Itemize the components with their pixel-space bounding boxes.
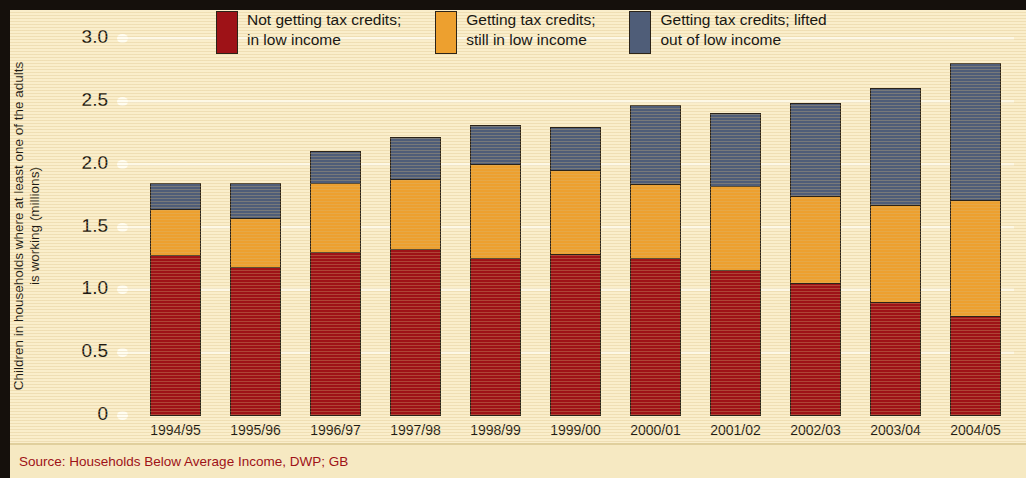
legend-label: Not getting tax credits; in low income: [247, 10, 401, 50]
legend-label: Getting tax credits; lifted out of low i…: [660, 10, 826, 50]
y-axis-tick-marker: [117, 223, 128, 232]
legend-color-swatch: [216, 11, 238, 54]
chart-figure: Children in households where at least on…: [0, 0, 1026, 478]
bar-segment: [150, 255, 201, 416]
bar-stack: [710, 0, 761, 415]
bar-segment: [950, 200, 1001, 317]
x-axis-tick-label: 1994/95: [136, 422, 216, 438]
bar-segment: [790, 196, 841, 284]
bar-segment: [470, 258, 521, 416]
y-axis-tick-label: 3.0: [42, 26, 108, 48]
bar-stack: [150, 0, 201, 415]
bar-stack: [470, 0, 521, 415]
bar-segment: [870, 302, 921, 416]
bar-segment: [950, 63, 1001, 201]
y-axis-tick-label: 2.0: [42, 152, 108, 174]
y-axis-tick-label: 0.5: [42, 340, 108, 362]
bar-segment: [470, 164, 521, 259]
x-axis-tick-label: 2002/03: [776, 422, 856, 438]
bar-segment: [950, 316, 1001, 416]
bar-stack: [390, 0, 441, 415]
y-axis-tick-label: 1.5: [42, 215, 108, 237]
x-axis-tick-label: 2000/01: [616, 422, 696, 438]
bar-segment: [230, 183, 281, 219]
bar-segment: [390, 249, 441, 416]
y-axis-tick-marker: [117, 348, 128, 357]
y-axis-tick-marker: [117, 34, 128, 43]
bar-segment: [550, 127, 601, 171]
bar-segment: [230, 267, 281, 416]
bar-segment: [150, 183, 201, 210]
bar-segment: [150, 209, 201, 256]
chart-legend: Not getting tax credits; in low incomeGe…: [216, 10, 827, 54]
bar-stack: [550, 0, 601, 415]
legend-item: Getting tax credits; lifted out of low i…: [629, 10, 826, 54]
bar-segment: [710, 113, 761, 187]
source-note: Source: Households Below Average Income,…: [19, 454, 348, 469]
bar-segment: [870, 88, 921, 206]
bar-segment: [790, 283, 841, 416]
y-axis-tick-marker: [117, 411, 128, 420]
bar-segment: [470, 125, 521, 165]
bar-stack: [950, 0, 1001, 415]
y-axis-tick-label: 2.5: [42, 89, 108, 111]
bar-segment: [630, 258, 681, 416]
legend-color-swatch: [435, 11, 457, 54]
bar-stack: [790, 0, 841, 415]
plot-area: Children in households where at least on…: [0, 0, 1026, 478]
x-axis-tick-label: 1999/00: [536, 422, 616, 438]
bar-segment: [630, 105, 681, 185]
bar-segment: [230, 218, 281, 268]
bar-segment: [710, 270, 761, 416]
frame-border-top: [0, 0, 1026, 10]
x-axis-tick-label: 1998/99: [456, 422, 536, 438]
chart-footer: Source: Households Below Average Income,…: [10, 443, 1026, 478]
legend-color-swatch: [629, 11, 651, 54]
bar-stack: [230, 0, 281, 415]
bar-segment: [870, 205, 921, 303]
x-axis-tick-label: 2004/05: [936, 422, 1016, 438]
bar-stack: [870, 0, 921, 415]
x-axis-tick-label: 1995/96: [216, 422, 296, 438]
bar-segment: [790, 103, 841, 197]
bar-segment: [550, 170, 601, 255]
y-axis-tick-marker: [117, 285, 128, 294]
bar-segment: [310, 151, 361, 183]
y-axis-tick-marker: [117, 97, 128, 106]
bar-segment: [630, 184, 681, 259]
bar-segment: [390, 137, 441, 179]
legend-item: Getting tax credits; still in low income: [435, 10, 595, 54]
bar-segment: [390, 179, 441, 250]
x-axis-tick-label: 2001/02: [696, 422, 776, 438]
bar-segment: [310, 183, 361, 253]
x-axis-tick-label: 2003/04: [856, 422, 936, 438]
bar-stack: [630, 0, 681, 415]
y-axis-label: Children in households where at least on…: [11, 61, 43, 391]
x-axis-tick-label: 1996/97: [296, 422, 376, 438]
y-axis-tick-marker: [117, 160, 128, 169]
legend-item: Not getting tax credits; in low income: [216, 10, 401, 54]
y-axis-tick-label: 1.0: [42, 277, 108, 299]
bar-segment: [310, 252, 361, 416]
bar-segment: [550, 254, 601, 416]
legend-label: Getting tax credits; still in low income: [466, 10, 595, 50]
frame-border-left: [0, 0, 10, 478]
x-axis-tick-label: 1997/98: [376, 422, 456, 438]
bar-stack: [310, 0, 361, 415]
bar-segment: [710, 186, 761, 271]
y-axis-tick-label: 0: [42, 403, 108, 425]
